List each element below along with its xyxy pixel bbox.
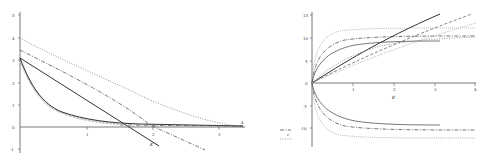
right-ytick: 15 <box>303 13 309 18</box>
figure: 5 4 3 2 1 0 -1 1 2 3 4 ε <box>0 0 489 157</box>
left-xtick: 1 <box>86 132 89 137</box>
legend-label: ε <box>287 132 289 137</box>
left-solid-linear <box>20 58 159 146</box>
left-solid-decay <box>20 58 243 126</box>
left-dotted-curve <box>20 38 243 127</box>
left-xtick: 3 <box>218 132 221 137</box>
left-ytick: -1 <box>10 147 14 152</box>
left-xtick: 4 <box>241 120 244 125</box>
left-ytick: 2 <box>12 81 15 86</box>
right-solid-linear <box>312 14 440 83</box>
left-ytick: 3 <box>12 58 15 63</box>
left-ytick: 4 <box>12 36 15 41</box>
left-curve-label: ε <box>150 140 153 147</box>
right-ytick: 5 <box>305 59 308 64</box>
right-ytick: 10 <box>303 36 309 41</box>
right-xtick: 2 <box>393 87 396 92</box>
right-xtick: 1 <box>352 87 355 92</box>
right-plot: 15 10 5 0 -5 -10 1 2 3 4 ε ε <box>280 12 477 147</box>
left-ytick: 0 <box>12 125 15 130</box>
right-ytick: 0 <box>305 81 308 86</box>
left-ytick: 1 <box>12 103 15 108</box>
left-dashdot-curve <box>20 50 205 150</box>
right-solid-lower <box>312 83 440 125</box>
right-solid-upper <box>312 41 440 83</box>
left-plot: 5 4 3 2 1 0 -1 1 2 3 4 ε <box>10 12 245 153</box>
right-ytick: -5 <box>303 104 307 109</box>
right-xtick: 4 <box>474 87 477 92</box>
right-dashdot-upper <box>312 36 476 83</box>
right-ytick: -10 <box>300 126 307 131</box>
left-xtick: 2 <box>152 132 155 137</box>
right-dotted-mid <box>312 37 476 83</box>
left-ytick: 5 <box>12 13 15 18</box>
right-xtick: 3 <box>434 87 437 92</box>
right-legend: ε <box>280 130 291 139</box>
right-x-label: ε <box>392 93 395 100</box>
